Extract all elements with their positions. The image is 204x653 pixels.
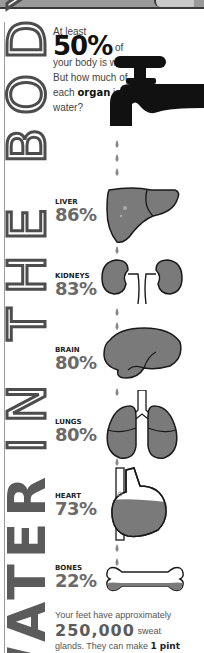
drop-icon	[114, 308, 120, 316]
footer-line1: Your feet have approximately	[55, 610, 171, 620]
bone-icon	[104, 564, 186, 594]
top-banner-tab	[154, 0, 194, 7]
title-bold-word: WATER	[0, 470, 57, 653]
organ-label-liver: LIVER 86%	[55, 198, 97, 224]
liver-icon	[103, 186, 181, 246]
drop-icon	[114, 154, 120, 162]
footer-line3: glands. They can make	[55, 641, 148, 651]
organ-label-bones: BONES 22%	[55, 564, 97, 590]
organ-label-kidneys: KIDNEYS 83%	[55, 272, 97, 298]
organ-label-lungs: LUNGS 80%	[55, 418, 97, 444]
heart-icon	[108, 466, 172, 542]
footer-stat: 250,000	[55, 621, 135, 640]
drop-icon	[114, 168, 120, 176]
drop-icon	[114, 140, 120, 148]
organ-label-brain: BRAIN 80%	[55, 346, 97, 372]
title-thin-words: IN THE BODY	[0, 0, 57, 452]
drop-icon	[114, 246, 120, 254]
brain-icon	[100, 326, 184, 382]
drop-icon	[114, 458, 120, 466]
kidneys-icon	[100, 258, 184, 304]
vertical-title: WATER IN THE BODY	[4, 12, 50, 653]
drop-icon	[114, 544, 120, 552]
footer-text: Your feet have approximately 250,000 swe…	[55, 608, 204, 653]
faucet-icon	[100, 56, 204, 126]
footer-line2: sweat	[137, 626, 161, 636]
organ-label-heart: HEART 73%	[55, 492, 97, 518]
lungs-icon	[100, 390, 184, 460]
footer-emphasis: 1 pint	[150, 641, 180, 651]
water-drops-1	[114, 140, 120, 182]
